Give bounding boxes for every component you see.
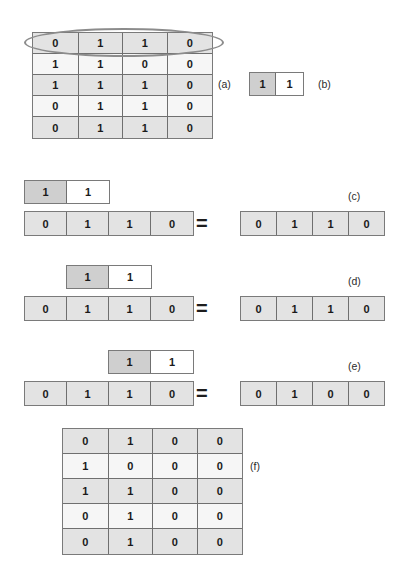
output-cell: 0 xyxy=(313,382,349,405)
kernel-cell: 1 xyxy=(276,73,303,95)
matrix-f-cell: 0 xyxy=(63,429,109,454)
matrix-a-row: 0 1 1 0 xyxy=(33,33,212,54)
matrix-a-cell: 1 xyxy=(33,75,79,96)
output-cell: 1 xyxy=(277,212,313,235)
output-cell: 0 xyxy=(349,212,384,235)
kernel-cell-anchor: 1 xyxy=(67,266,109,288)
matrix-a-cell: 0 xyxy=(168,54,213,75)
equals-sign-c: = xyxy=(196,213,208,233)
input-cell: 0 xyxy=(25,382,67,405)
input-cell: 0 xyxy=(151,382,193,405)
matrix-a-cell: 1 xyxy=(79,75,124,96)
output-cell: 1 xyxy=(313,297,349,320)
kernel-cell: 1 xyxy=(67,181,109,203)
panel-label-a: (a) xyxy=(218,79,231,90)
step-d-kernel: 1 1 xyxy=(66,265,152,289)
matrix-a-row: 0 1 1 0 xyxy=(33,117,212,138)
matrix-a-cell: 1 xyxy=(79,54,124,75)
kernel-cell: 1 xyxy=(151,351,193,373)
output-cell: 1 xyxy=(313,212,349,235)
matrix-a-row: 1 1 1 0 xyxy=(33,75,212,96)
matrix-f-cell: 0 xyxy=(63,529,109,554)
output-cell: 1 xyxy=(277,297,313,320)
kernel-cell: 1 xyxy=(109,266,151,288)
matrix-f-cell: 0 xyxy=(153,504,198,529)
matrix-a-cell: 0 xyxy=(168,33,213,54)
matrix-f-cell: 1 xyxy=(109,429,154,454)
matrix-a-cell: 1 xyxy=(79,96,124,117)
matrix-f-row: 0 1 0 0 xyxy=(63,429,242,454)
step-c-input: 0 1 1 0 xyxy=(24,211,194,236)
step-e-kernel: 1 1 xyxy=(108,350,194,374)
matrix-a-row: 0 1 1 0 xyxy=(33,96,212,117)
equals-sign-d: = xyxy=(196,298,208,318)
matrix-a-cell: 1 xyxy=(123,75,168,96)
panel-label-e: (e) xyxy=(348,361,361,372)
matrix-f-cell: 1 xyxy=(109,529,154,554)
matrix-f-cell: 0 xyxy=(153,479,198,504)
matrix-f-row: 1 0 0 0 xyxy=(63,454,242,479)
matrix-f-cell: 0 xyxy=(198,429,243,454)
matrix-f-cell: 0 xyxy=(198,529,243,554)
matrix-a-cell: 0 xyxy=(33,96,79,117)
matrix-a-cell: 1 xyxy=(79,33,124,54)
input-cell: 1 xyxy=(67,212,109,235)
matrix-f-cell: 0 xyxy=(63,504,109,529)
matrix-f-cell: 0 xyxy=(153,529,198,554)
matrix-f-cell: 1 xyxy=(109,504,154,529)
matrix-a-cell: 0 xyxy=(33,33,79,54)
matrix-a-cell: 1 xyxy=(123,117,168,138)
panel-label-d: (d) xyxy=(348,276,361,287)
matrix-f-cell: 1 xyxy=(63,454,109,479)
matrix-a-cell: 1 xyxy=(79,117,124,138)
matrix-f-row: 1 1 0 0 xyxy=(63,479,242,504)
output-cell: 0 xyxy=(241,382,277,405)
input-cell: 1 xyxy=(67,382,109,405)
input-cell: 1 xyxy=(67,297,109,320)
matrix-a-row: 1 1 0 0 xyxy=(33,54,212,75)
output-cell: 0 xyxy=(241,297,277,320)
matrix-f-cell: 0 xyxy=(109,454,154,479)
panel-label-f: (f) xyxy=(250,461,260,472)
input-cell: 0 xyxy=(25,297,67,320)
kernel-cell-anchor: 1 xyxy=(109,351,151,373)
matrix-a-cell: 0 xyxy=(168,117,213,138)
input-cell: 0 xyxy=(151,212,193,235)
figure-canvas: 0 1 1 0 1 1 0 0 1 1 1 0 0 1 1 0 0 1 1 0 xyxy=(0,0,409,574)
matrix-f-cell: 0 xyxy=(198,504,243,529)
matrix-f-cell: 0 xyxy=(198,454,243,479)
matrix-f-cell: 1 xyxy=(63,479,109,504)
matrix-a: 0 1 1 0 1 1 0 0 1 1 1 0 0 1 1 0 0 1 1 0 xyxy=(32,32,213,139)
step-d-input: 0 1 1 0 xyxy=(24,296,194,321)
matrix-f-cell: 0 xyxy=(153,454,198,479)
matrix-f-row: 0 1 0 0 xyxy=(63,529,242,554)
panel-label-b: (b) xyxy=(318,79,331,90)
matrix-a-cell: 0 xyxy=(168,96,213,117)
input-cell: 0 xyxy=(151,297,193,320)
kernel-cell-anchor: 1 xyxy=(25,181,67,203)
step-c-kernel: 1 1 xyxy=(24,180,110,204)
panel-label-c: (c) xyxy=(348,191,360,202)
step-c-output: 0 1 1 0 xyxy=(240,211,385,236)
matrix-a-cell: 1 xyxy=(123,96,168,117)
matrix-a-cell: 0 xyxy=(123,54,168,75)
step-d-output: 0 1 1 0 xyxy=(240,296,385,321)
input-cell: 1 xyxy=(109,212,151,235)
equals-sign-e: = xyxy=(196,383,208,403)
matrix-a-cell: 1 xyxy=(33,54,79,75)
matrix-f: 0 1 0 0 1 0 0 0 1 1 0 0 0 1 0 0 0 1 0 0 xyxy=(62,428,243,555)
output-cell: 0 xyxy=(241,212,277,235)
kernel-b: 1 1 xyxy=(249,72,304,96)
step-e-input: 0 1 1 0 xyxy=(24,381,194,406)
input-cell: 1 xyxy=(109,297,151,320)
output-cell: 0 xyxy=(349,297,384,320)
input-cell: 0 xyxy=(25,212,67,235)
matrix-f-cell: 0 xyxy=(153,429,198,454)
step-e-output: 0 1 0 0 xyxy=(240,381,385,406)
matrix-a-cell: 0 xyxy=(168,75,213,96)
matrix-f-cell: 0 xyxy=(198,479,243,504)
input-cell: 1 xyxy=(109,382,151,405)
matrix-f-row: 0 1 0 0 xyxy=(63,504,242,529)
matrix-f-cell: 1 xyxy=(109,479,154,504)
output-cell: 0 xyxy=(349,382,384,405)
